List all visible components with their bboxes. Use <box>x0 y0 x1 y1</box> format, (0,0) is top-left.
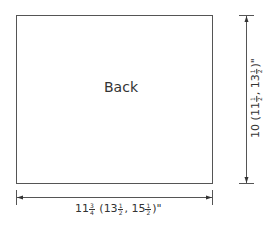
height-alt1-fraction: 12 <box>250 96 263 102</box>
width-alt1-fraction: 12 <box>118 203 124 216</box>
height-alt2-fraction: 12 <box>250 68 263 74</box>
width-measurement: 1134 (1312, 1512)" <box>75 202 162 216</box>
height-main: 10 <box>249 124 262 138</box>
schematic-drawing <box>0 0 270 229</box>
height-alt2: 13 <box>249 74 262 88</box>
width-alt1: 13 <box>104 202 118 215</box>
arrow-left-icon <box>17 196 23 200</box>
width-main: 11 <box>75 202 89 215</box>
arrow-right-icon <box>206 196 212 200</box>
height-measurement: 10 (1112, 1312)" <box>249 58 263 138</box>
width-main-fraction: 34 <box>89 203 95 216</box>
back-piece-outline <box>17 16 213 184</box>
piece-label: Back <box>104 79 138 95</box>
arrow-up-icon <box>245 16 249 22</box>
width-alt2: 15 <box>131 202 145 215</box>
width-alt2-fraction: 12 <box>145 203 151 216</box>
height-alt1: 11 <box>249 102 262 116</box>
arrow-down-icon <box>245 177 249 183</box>
